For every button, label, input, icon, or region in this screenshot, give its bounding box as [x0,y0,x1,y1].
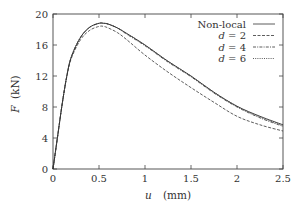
y-axis-label: F (kN) [9,75,21,113]
force-displacement-chart: 00.511.522.5 048121620 u (mm) F (kN) Non… [0,0,303,212]
series-line-d-2 [53,26,283,169]
y-axis-unit: (kN) [9,75,21,99]
plot-border [53,14,283,169]
x-tick-label: 1.5 [183,173,199,184]
y-tick-label: 20 [35,9,48,20]
x-tick-label: 0 [50,173,56,184]
series-line-non-local [53,23,283,169]
x-axis-ticks: 00.511.522.5 [50,14,291,184]
legend-label: Non-local [197,19,246,30]
x-axis-variable: u [145,189,152,201]
legend-label: d = 4 [218,42,246,53]
x-tick-label: 2 [234,173,240,184]
x-tick-label: 2.5 [275,173,291,184]
y-tick-label: 16 [35,40,48,51]
legend-label: d = 2 [218,30,246,41]
y-tick-label: 12 [35,71,48,82]
x-tick-label: 1 [142,173,148,184]
y-tick-label: 0 [42,164,48,175]
y-axis-variable: F [9,105,21,114]
x-tick-label: 0.5 [91,173,107,184]
plot-frame [53,14,283,169]
x-axis-unit: (mm) [163,189,191,201]
series-lines [53,23,283,169]
legend-label: d = 6 [218,53,246,64]
y-tick-label: 8 [42,102,48,113]
series-line-d-6 [53,23,283,169]
y-tick-label: 4 [42,133,48,144]
x-axis-label: u (mm) [145,189,191,201]
series-line-d-4 [53,23,283,169]
legend: Non-locald = 2d = 4d = 6 [197,19,275,65]
